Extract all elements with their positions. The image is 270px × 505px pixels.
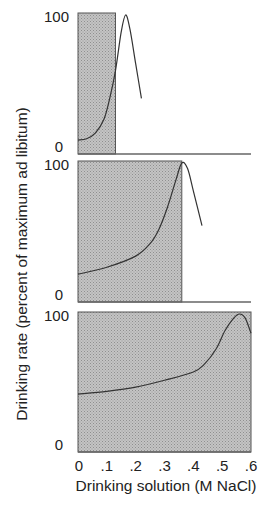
x-tick-label: .4 <box>187 457 200 474</box>
x-tick-label: .2 <box>129 457 142 474</box>
x-axis-tick-labels: 0.1.2.3.4.5.6 <box>75 457 257 474</box>
y-tick-label-100: 100 <box>44 8 69 25</box>
y-tick-label-100: 100 <box>44 307 69 324</box>
x-tick-label: .6 <box>245 457 258 474</box>
panel-middle: 1000 <box>44 156 251 303</box>
shaded-region <box>78 13 115 154</box>
panel-bottom: 1000 <box>44 307 251 453</box>
shaded-region <box>78 161 182 302</box>
x-tick-label: .1 <box>101 457 114 474</box>
chart: 1000 1000 1000 0.1.2.3.4.5.6 Drinking so… <box>0 0 270 505</box>
shaded-region <box>78 312 251 452</box>
y-tick-label-0: 0 <box>55 436 63 453</box>
y-axis-label: Drinking rate (percent of maximum ad lib… <box>13 107 30 421</box>
panel-top: 1000 <box>44 8 251 155</box>
x-tick-label: .3 <box>158 457 171 474</box>
y-tick-label-0: 0 <box>55 286 63 303</box>
x-axis-label: Drinking solution (M NaCl) <box>76 477 257 494</box>
y-tick-label-0: 0 <box>55 138 63 155</box>
y-tick-label-100: 100 <box>44 156 69 173</box>
x-tick-label: 0 <box>75 457 83 474</box>
x-tick-label: .5 <box>216 457 229 474</box>
